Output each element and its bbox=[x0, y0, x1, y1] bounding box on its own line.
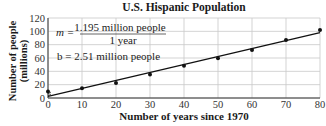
x-tick-label: 20 bbox=[111, 99, 122, 110]
plot-area: 01020304050607080020406080100120 m =1.19… bbox=[0, 0, 326, 126]
x-tick-label: 30 bbox=[145, 99, 156, 110]
y-tick-label: 120 bbox=[29, 13, 45, 24]
x-tick-label: 80 bbox=[315, 99, 326, 110]
slope-denominator: 1 year bbox=[109, 34, 137, 46]
data-point bbox=[182, 64, 186, 68]
x-tick-label: 10 bbox=[77, 99, 88, 110]
y-tick-label: 0 bbox=[40, 93, 45, 104]
data-point bbox=[80, 86, 84, 90]
y-tick-label: 60 bbox=[35, 53, 46, 64]
x-tick-label: 40 bbox=[179, 99, 190, 110]
y-tick-label: 40 bbox=[35, 66, 46, 77]
y-tick-label: 100 bbox=[29, 26, 45, 37]
intercept-label: b = 2.51 million people bbox=[57, 50, 160, 62]
slope-numerator: 1.195 million people bbox=[74, 21, 165, 33]
x-tick-label: 0 bbox=[45, 99, 50, 110]
data-point bbox=[318, 28, 322, 32]
x-tick-label: 70 bbox=[281, 99, 292, 110]
data-point bbox=[216, 56, 220, 60]
data-point bbox=[114, 81, 118, 85]
x-tick-label: 60 bbox=[247, 99, 258, 110]
x-tick-label: 50 bbox=[213, 99, 224, 110]
y-tick-label: 20 bbox=[35, 79, 46, 90]
equation-annotation: m =1.195 million people1 yearb = 2.51 mi… bbox=[56, 21, 166, 62]
y-tick-label: 80 bbox=[35, 39, 46, 50]
slope-label: m = bbox=[56, 26, 74, 38]
data-point bbox=[250, 48, 254, 52]
data-point bbox=[46, 90, 50, 94]
data-point bbox=[284, 38, 288, 42]
data-point bbox=[148, 72, 152, 76]
